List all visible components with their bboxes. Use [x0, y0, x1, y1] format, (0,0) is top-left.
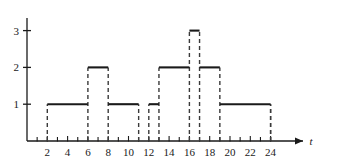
x-tick-label-24: 24	[265, 146, 277, 158]
x-tick-label-22: 22	[245, 146, 256, 158]
step-transitions	[47, 31, 270, 141]
x-tick-label-8: 8	[105, 146, 111, 158]
x-axis-label: t	[309, 135, 313, 147]
x-tick-label-10: 10	[123, 146, 135, 158]
x-tick-label-2: 2	[45, 146, 51, 158]
x-axis-arrowhead	[295, 137, 303, 144]
x-tick-label-16: 16	[184, 146, 196, 158]
y-axis-tick-labels: 123	[14, 25, 20, 111]
x-tick-label-4: 4	[65, 146, 71, 158]
y-tick-label-1: 1	[14, 98, 20, 110]
step-function-chart: 123 24681012141618202224 t	[0, 0, 343, 164]
step-levels	[47, 31, 270, 105]
x-tick-label-14: 14	[164, 146, 176, 158]
axes	[27, 18, 303, 145]
y-tick-label-2: 2	[14, 61, 20, 73]
chart-canvas: 123 24681012141618202224 t	[0, 0, 343, 164]
x-tick-label-20: 20	[225, 146, 237, 158]
x-tick-label-12: 12	[143, 146, 154, 158]
y-tick-label-3: 3	[14, 25, 20, 37]
x-axis-tick-labels: 24681012141618202224	[45, 146, 277, 158]
x-tick-label-18: 18	[204, 146, 216, 158]
x-tick-label-6: 6	[85, 146, 91, 158]
